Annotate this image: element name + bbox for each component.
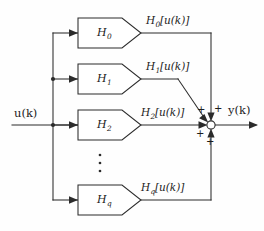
- block-label-hq: Hq: [97, 194, 111, 205]
- operator-blocks-group: [78, 18, 141, 215]
- signal-label-h0: H0[u(k)]: [146, 15, 189, 26]
- signal-label-h1-subscript: 1: [155, 66, 160, 75]
- signal-label-h2: H2[u(k)]: [141, 107, 184, 118]
- input-signal-text: u(k): [14, 106, 37, 120]
- bus-junction-dot-h2: [51, 123, 55, 127]
- signal-label-hq-arg: [u(k)]: [155, 181, 185, 193]
- block-label-hq-base: H: [97, 193, 107, 206]
- signal-label-h2-subscript: 2: [150, 112, 155, 121]
- block-label-h0-base: H: [97, 26, 107, 39]
- output-wire-group: [216, 121, 259, 129]
- block-label-h2-subscript: 2: [107, 124, 112, 133]
- signal-label-hq-base: H: [141, 181, 150, 193]
- ellipsis-dot-1: [99, 154, 102, 157]
- signal-label-h1-arg: [u(k)]: [160, 60, 190, 72]
- signal-label-hq: Hq[u(k)]: [141, 182, 184, 193]
- summer-sign-bottom-left: +: [196, 129, 204, 139]
- summer-sign-top-right: +: [214, 104, 222, 114]
- ellipsis-dot-3: [99, 170, 102, 173]
- block-diagram-figure: u(k) y(k) H0 H1 H2 Hq H0[u(k)] H1[u(k)] …: [0, 0, 264, 231]
- signal-label-h1-base: H: [146, 60, 155, 72]
- signal-label-h2-base: H: [141, 106, 150, 118]
- vertical-ellipsis-icon: [99, 154, 102, 173]
- block-label-hq-subscript: q: [107, 199, 112, 208]
- summer-sign-bottom-right: +: [206, 137, 214, 147]
- block-label-h1: H1: [97, 73, 111, 84]
- output-arrowhead: [249, 121, 258, 129]
- block-label-h0-subscript: 0: [107, 32, 112, 41]
- signal-label-hq-subscript: q: [150, 187, 155, 196]
- arrowhead-into-h0: [69, 29, 78, 37]
- bus-junction-dot-h1: [51, 77, 55, 81]
- summer-sign-top-left: +: [197, 105, 205, 115]
- summing-junction-node[interactable]: [207, 121, 215, 129]
- signal-label-h0-subscript: 0: [155, 20, 160, 29]
- signal-label-h2-arg: [u(k)]: [155, 106, 185, 118]
- distribution-bus-group: [51, 29, 78, 204]
- arrowhead-h1-into-summer: [199, 114, 208, 123]
- block-label-h1-subscript: 1: [107, 78, 112, 87]
- block-label-h1-base: H: [97, 72, 107, 85]
- diagram-canvas: [0, 0, 264, 231]
- block-label-h2: H2: [97, 119, 111, 130]
- input-signal-label: u(k): [14, 108, 37, 120]
- arrowhead-into-hq: [69, 196, 78, 204]
- ellipsis-dot-2: [99, 162, 102, 165]
- block-label-h0: H0: [97, 27, 111, 38]
- signal-label-h1: H1[u(k)]: [146, 61, 189, 72]
- signal-label-h0-arg: [u(k)]: [160, 14, 190, 26]
- block-label-h2-base: H: [97, 118, 107, 131]
- summing-junction-group[interactable]: [207, 121, 215, 129]
- signal-label-h0-base: H: [146, 14, 155, 26]
- arrowhead-into-h1: [69, 75, 78, 83]
- output-signal-text: y(k): [228, 103, 250, 117]
- output-signal-label: y(k): [228, 105, 250, 117]
